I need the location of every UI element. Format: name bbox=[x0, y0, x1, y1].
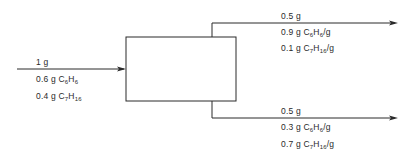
bottom-output-component-2-label: 0.7 g C7H16/g bbox=[281, 139, 334, 149]
input-component-2-label: 0.4 g C7H16 bbox=[36, 91, 82, 101]
h-subscript: 16 bbox=[320, 144, 327, 150]
amount: 0.6 g bbox=[36, 74, 56, 84]
top-output-total-label: 0.5 g bbox=[281, 11, 301, 21]
top-output-component-1-label: 0.9 g C6H6/g bbox=[281, 27, 331, 37]
bottom-output-component-1-label: 0.3 g C6H6/g bbox=[281, 122, 331, 132]
h-subscript: 6 bbox=[75, 79, 79, 85]
input-component-1-label: 0.6 g C6H6 bbox=[36, 74, 78, 84]
amount: 0.9 g bbox=[281, 27, 301, 37]
bottom-output-total-label: 0.5 g bbox=[281, 106, 301, 116]
per-gram-suffix: /g bbox=[327, 43, 335, 53]
per-gram-suffix: /g bbox=[323, 122, 331, 132]
process-unit-box bbox=[126, 37, 236, 101]
amount: 0.3 g bbox=[281, 122, 301, 132]
input-total-label: 1 g bbox=[36, 57, 48, 67]
amount: 0.1 g bbox=[281, 43, 301, 53]
top-output-component-2-label: 0.1 g C7H16/g bbox=[281, 43, 334, 53]
amount: 0.4 g bbox=[36, 91, 56, 101]
per-gram-suffix: /g bbox=[327, 139, 335, 149]
h-subscript: 16 bbox=[75, 96, 82, 102]
h-subscript: 16 bbox=[320, 48, 327, 54]
per-gram-suffix: /g bbox=[323, 27, 331, 37]
amount: 0.7 g bbox=[281, 139, 301, 149]
bottom-output-stream-line bbox=[212, 101, 395, 118]
